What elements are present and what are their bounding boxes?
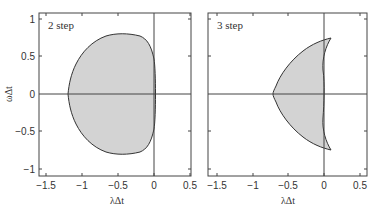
panel-title: 2 step: [48, 19, 74, 31]
x-tick: 0.5: [183, 180, 197, 191]
x-tick: −1.5: [36, 180, 56, 191]
x-tick: 0: [151, 180, 157, 191]
panel-3-step: 3 step −1.5 −1 −0.5 0 0.5 λΔt: [207, 13, 367, 206]
y-tick: 0: [29, 89, 35, 100]
y-tick: −1: [24, 164, 36, 175]
y-axis-label: ωΔt: [3, 86, 14, 102]
y-tick: −0.5: [15, 126, 35, 137]
x-tick: −0.5: [278, 180, 298, 191]
panel-2-step: 2 step −1.5 −1 −0.5 0 0.5 1 0.5 0 −0.5 −…: [3, 13, 197, 206]
panel-title: 3 step: [217, 19, 243, 31]
y-tick: 1: [29, 14, 35, 25]
x-axis-label: λΔt: [281, 195, 295, 206]
y-tick: 0.5: [21, 51, 35, 62]
x-tick: 0.5: [353, 180, 367, 191]
x-tick: −1.5: [207, 180, 227, 191]
x-tick: −1: [247, 180, 259, 191]
x-tick: −0.5: [108, 180, 128, 191]
x-axis-label: λΔt: [110, 195, 124, 206]
stability-region-figure: 2 step −1.5 −1 −0.5 0 0.5 1 0.5 0 −0.5 −…: [0, 0, 378, 218]
x-tick: −1: [76, 180, 88, 191]
x-tick: 0: [321, 180, 327, 191]
